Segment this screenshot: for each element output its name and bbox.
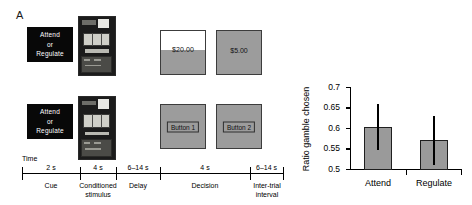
- segment-phase-conditioned-stimulus: Conditioned stimulus: [76, 181, 120, 200]
- chart-y-tick-label: 0.6: [328, 123, 340, 133]
- chart-x-tick: [406, 170, 407, 175]
- segment-phase-delay: Delay: [116, 181, 160, 190]
- chart-y-tick-label: 0.65: [323, 102, 340, 112]
- segment-duration-conditioned-stimulus: 4 s: [80, 164, 116, 171]
- segment-duration-delay: 6–14 s: [116, 164, 160, 171]
- segment-phase-line2: stimulus: [85, 191, 111, 198]
- timeline-axis-label: Time: [22, 155, 37, 162]
- panel-b-bar-chart: B Ratio gamble chosen 0.50.550.60.650.7A…: [300, 0, 472, 205]
- segment-duration-inter-trial-interval: 6–14 s: [250, 164, 283, 171]
- segment-phase-line2: interval: [256, 191, 279, 198]
- chart-y-tick: 0.55: [346, 148, 351, 149]
- segment-phase-cue: Cue: [22, 181, 80, 190]
- chart-y-tick-label: 0.7: [328, 82, 340, 92]
- chart-x-tick: [461, 170, 462, 175]
- chart-y-tick: 0.7: [346, 87, 351, 88]
- chart-y-tick-label: 0.55: [323, 143, 340, 153]
- chart-error-bar-regulate: [433, 116, 434, 165]
- segment-duration-cue: 2 s: [22, 164, 80, 171]
- chart-y-tick: 0.65: [346, 107, 351, 108]
- chart-error-bar-attend: [377, 104, 378, 149]
- chart-y-axis-line: [350, 88, 351, 170]
- segment-phase-line1: Inter-trial: [253, 182, 281, 189]
- segment-phase-line1: Conditioned: [79, 182, 116, 189]
- chart-y-tick: 0.6: [346, 128, 351, 129]
- segment-duration-decision: 4 s: [160, 164, 250, 171]
- segment-phase-inter-trial-interval: Inter-trial interval: [248, 181, 286, 200]
- chart-y-axis-title: Ratio gamble chosen: [301, 87, 311, 172]
- chart-y-tick: 0.5: [346, 169, 351, 170]
- timeline-tick: [283, 167, 284, 180]
- chart-y-tick-label: 0.5: [328, 164, 340, 174]
- chart-plot-area: 0.50.550.60.650.7AttendRegulate: [350, 88, 462, 170]
- trial-timeline: Time 2 s 4 s 6–14 s 4 s 6–14 s Cue Condi…: [0, 0, 300, 205]
- panel-a-trial-schematic: A Attend or Regulate $20.00 $5.00 Attend…: [0, 0, 300, 205]
- timeline-axis-line: [22, 173, 283, 174]
- chart-x-category-label: Attend: [365, 178, 391, 188]
- segment-phase-decision: Decision: [160, 181, 250, 190]
- chart-x-category-label: Regulate: [416, 178, 452, 188]
